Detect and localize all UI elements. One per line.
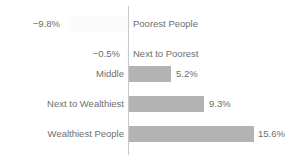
value-label-next-to-poorest: −0.5% [93,46,120,62]
bar-wealthiest-people [129,126,254,142]
value-label-wealthiest-people: 15.6% [258,126,285,142]
chart-row: −9.8% Poorest People [0,16,296,32]
category-label-wealthiest-people: Wealthiest People [48,126,124,142]
category-label-middle: Middle [96,66,124,82]
chart-row: Next to Wealthiest 9.3% [0,96,296,112]
category-label-next-to-wealthiest: Next to Wealthiest [47,96,124,112]
category-label-next-to-poorest: Next to Poorest [133,46,198,62]
value-label-poorest-people: −9.8% [33,16,60,32]
bar-next-to-poorest [125,46,128,62]
bar-poorest-people [68,16,128,32]
value-label-next-to-wealthiest: 9.3% [209,96,231,112]
value-label-middle: 5.2% [176,66,198,82]
chart-row: Middle 5.2% [0,66,296,82]
chart-row: Wealthiest People 15.6% [0,126,296,142]
bar-next-to-wealthiest [129,96,204,112]
category-label-poorest-people: Poorest People [133,16,198,32]
bar-chart: −9.8% Poorest People −0.5% Next to Poore… [0,0,296,161]
bar-middle [129,66,171,82]
chart-row: −0.5% Next to Poorest [0,46,296,62]
